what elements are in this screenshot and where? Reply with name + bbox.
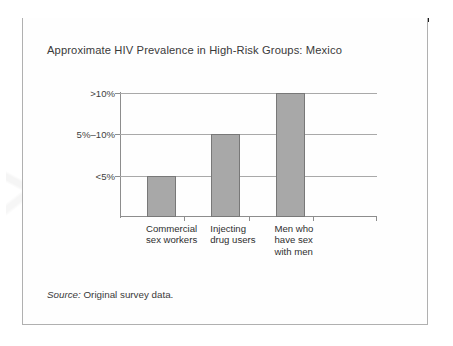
bar-chart: <5%5%–10%>10%Commercial sex workersInjec… [23, 18, 429, 325]
y-axis-tick [115, 134, 120, 135]
source-label: Source: [47, 289, 81, 300]
source-note: Source: Original survey data. [47, 289, 173, 300]
y-axis-label: >10% [90, 88, 115, 99]
x-axis-category-label: Men who have sex with men [275, 223, 314, 257]
source-text: Original survey data. [84, 289, 174, 300]
x-axis-category-label: Commercial sex workers [146, 223, 197, 246]
x-axis-tick [184, 217, 185, 221]
x-axis-tick [313, 217, 314, 221]
gridline [120, 93, 377, 94]
x-axis-tick [249, 217, 250, 221]
figure-frame: Approximate HIV Prevalence in High-Risk … [22, 18, 428, 325]
y-axis-tick [115, 176, 120, 177]
y-axis-line [120, 92, 121, 218]
y-axis-label: 5%–10% [77, 129, 115, 140]
y-axis-tick [115, 93, 120, 94]
x-axis-tick [376, 217, 377, 221]
bar [211, 134, 240, 217]
gridline [120, 134, 377, 135]
x-axis-category-label: Injecting drug users [210, 223, 255, 246]
y-axis-label: <5% [96, 170, 115, 181]
plot-area: <5%5%–10%>10%Commercial sex workersInjec… [120, 93, 377, 217]
bar [276, 93, 305, 217]
bar [147, 176, 176, 217]
